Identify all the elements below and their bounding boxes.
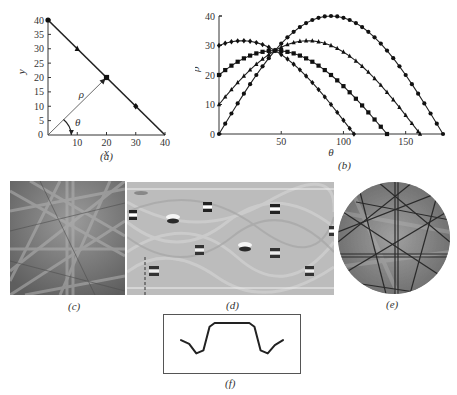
panel-c-ebsd-pattern-image <box>10 181 125 295</box>
circle-marker <box>372 35 376 39</box>
circle-marker <box>379 42 383 46</box>
panel-d-hough-transform-image <box>127 182 334 295</box>
circle-marker <box>329 14 333 18</box>
square-marker <box>229 64 233 68</box>
square-marker <box>385 132 389 136</box>
circle-marker <box>323 14 327 18</box>
sinusoid-curve <box>219 41 354 134</box>
circle-marker <box>354 21 358 25</box>
square-marker <box>298 53 302 57</box>
square-marker <box>304 56 308 60</box>
square-marker <box>260 50 264 54</box>
circle-marker <box>304 21 308 25</box>
circle-marker <box>260 64 264 68</box>
y-tick-label: 20 <box>34 72 44 83</box>
theta-label: θ <box>75 116 81 128</box>
y-tick-label: 25 <box>34 58 44 69</box>
square-marker <box>104 75 109 80</box>
panel-a-line-plot: 102030400510152025303540xyρθ <box>0 0 200 160</box>
triangle-marker <box>360 64 364 68</box>
origin-label: 0 <box>38 129 43 140</box>
square-marker <box>285 50 289 54</box>
y-tick-label: 10 <box>205 99 215 110</box>
x-tick-label: 40 <box>160 137 170 148</box>
square-marker <box>354 97 358 101</box>
circle-marker <box>223 122 227 126</box>
circle-marker <box>267 56 271 60</box>
y-tick-label: 5 <box>39 115 44 126</box>
circle-marker <box>348 18 352 22</box>
circle-marker <box>366 30 370 34</box>
kikuchi-bands-graphic <box>10 181 125 295</box>
square-marker <box>310 60 314 64</box>
circle-marker <box>248 82 252 86</box>
square-marker <box>379 125 383 129</box>
x-tick-label: 30 <box>131 137 141 148</box>
x-tick-label: 100 <box>336 136 351 147</box>
y-axis-label: ρ <box>195 66 201 72</box>
x-tick-label: 50 <box>276 136 286 147</box>
circle-marker <box>335 14 339 18</box>
circle-marker <box>410 82 414 86</box>
square-marker <box>341 84 345 88</box>
circle-marker <box>441 132 445 136</box>
panel-b-hough-sinusoid-plot: 50100150010203040θρ <box>195 0 457 160</box>
circle-marker <box>45 17 50 22</box>
circle-marker <box>416 92 420 96</box>
y-tick-label: 30 <box>205 40 215 51</box>
diamond-marker <box>236 38 240 43</box>
square-marker <box>254 51 258 55</box>
x-axis-label: θ <box>328 146 334 158</box>
hough-space-graphic <box>127 182 334 295</box>
diamond-marker <box>254 40 258 45</box>
square-marker <box>372 117 376 121</box>
diamond-marker <box>229 39 233 44</box>
square-marker <box>223 68 227 72</box>
square-marker <box>248 53 252 57</box>
circle-marker <box>428 111 432 115</box>
detected-bands-graphic <box>338 182 450 294</box>
y-axis-label: y <box>15 69 27 75</box>
rho-label: ρ <box>78 88 84 100</box>
circle-marker <box>341 16 345 20</box>
y-tick-label: 0 <box>210 129 215 140</box>
circle-marker <box>292 30 296 34</box>
circle-marker <box>236 101 240 105</box>
circle-marker <box>217 132 221 136</box>
circle-marker <box>229 111 233 115</box>
caption-e: (e) <box>386 298 398 310</box>
diamond-marker <box>260 42 264 47</box>
y-tick-label: 10 <box>34 101 44 112</box>
square-marker <box>366 110 370 114</box>
x-tick-label: 150 <box>398 136 413 147</box>
diamond-marker <box>248 39 252 44</box>
theta-arc <box>64 120 72 136</box>
x-tick-label: 10 <box>72 137 82 148</box>
square-marker <box>316 64 320 68</box>
circle-marker <box>422 101 426 105</box>
circle-marker <box>316 16 320 20</box>
diamond-marker <box>217 43 221 48</box>
circle-marker <box>385 48 389 52</box>
caption-a: (a) <box>100 150 113 162</box>
y-tick-label: 35 <box>34 29 44 40</box>
circle-marker <box>391 56 395 60</box>
square-marker <box>292 51 296 55</box>
square-marker <box>329 73 333 77</box>
circle-marker <box>360 25 364 29</box>
square-marker <box>242 56 246 60</box>
theta-arrowhead <box>69 130 74 135</box>
circle-marker <box>254 73 258 77</box>
y-tick-label: 20 <box>205 70 215 81</box>
square-marker <box>217 73 221 77</box>
circle-marker <box>298 25 302 29</box>
y-tick-label: 15 <box>34 86 44 97</box>
caption-c: (c) <box>68 300 80 312</box>
square-marker <box>348 90 352 94</box>
circle-marker <box>242 92 246 96</box>
square-marker <box>236 60 240 64</box>
y-tick-label: 30 <box>34 43 44 54</box>
diamond-marker <box>223 41 227 46</box>
circle-marker <box>310 18 314 22</box>
circle-marker <box>435 122 439 126</box>
